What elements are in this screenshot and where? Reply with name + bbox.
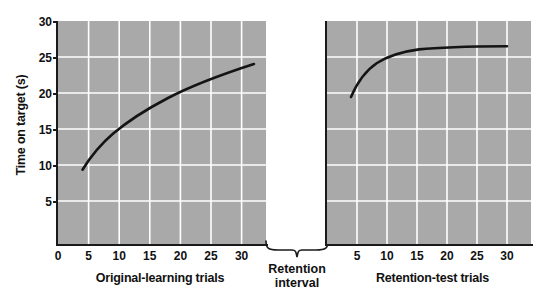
- panel-retention-test: 5 10 15 20 25 30 Retention-test trials: [0, 0, 556, 301]
- right-panel-svg: [327, 21, 531, 244]
- right-x-tick-25: 25: [462, 250, 492, 262]
- right-panel-plot-area: [327, 21, 531, 244]
- right-panel-x-axis-title: Retention-test trials: [325, 271, 540, 285]
- right-x-tick-15: 15: [402, 250, 432, 262]
- right-x-tick-30: 30: [492, 250, 522, 262]
- right-x-tick-20: 20: [432, 250, 462, 262]
- right-x-tick-5: 5: [342, 250, 372, 262]
- right-x-tick-10: 10: [372, 250, 402, 262]
- right-panel-gridlines: [327, 21, 531, 244]
- right-panel-curve: [351, 46, 507, 97]
- figure-root: Time on target (s) 5 10 15 20 25 30: [0, 0, 556, 301]
- right-panel-x-spine: [325, 244, 533, 246]
